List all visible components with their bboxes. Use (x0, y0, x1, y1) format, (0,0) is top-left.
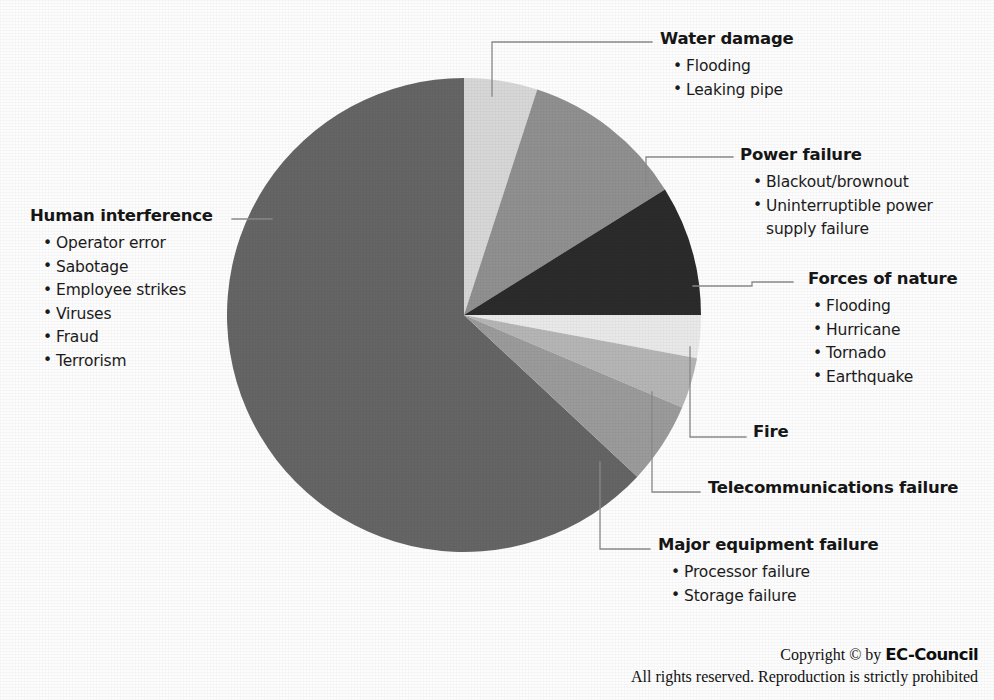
bullet-icon: • (43, 279, 52, 303)
pie-slices (227, 78, 701, 552)
copyright-line: Copyright © by EC-Council (631, 644, 978, 666)
bullet-icon: • (671, 561, 680, 585)
bullet-icon: • (753, 171, 762, 195)
list-item-label: Blackout/brownout (766, 173, 909, 191)
callout-list-water-damage: •Flooding •Leaking pipe (660, 55, 794, 102)
callout-fire: Fire (753, 423, 788, 441)
list-item-continuation: supply failure (753, 218, 933, 242)
list-item-label: supply failure (766, 220, 869, 238)
callout-list-human-interference: •Operator error •Sabotage •Employee stri… (30, 232, 213, 373)
bullet-icon: • (813, 295, 822, 319)
callout-power-failure: Power failure •Blackout/brownout •Uninte… (740, 146, 933, 242)
bullet-icon: • (43, 326, 52, 350)
list-item: •Fraud (43, 326, 213, 350)
callout-title-forces-of-nature: Forces of nature (800, 270, 958, 288)
list-item-label: Storage failure (684, 587, 796, 605)
bullet-icon: • (673, 78, 682, 102)
list-item-label: Earthquake (826, 368, 913, 386)
list-item-label: Fraud (56, 328, 99, 346)
callout-title-human-interference: Human interference (30, 207, 213, 225)
list-item: •Employee strikes (43, 279, 213, 303)
list-item: •Flooding (673, 55, 794, 79)
list-item: •Viruses (43, 303, 213, 327)
list-item-label: Flooding (826, 297, 891, 315)
list-item: •Uninterruptible power (753, 195, 933, 219)
callout-title-fire: Fire (753, 423, 788, 441)
callout-telecommunications-failure: Telecommunications failure (708, 479, 958, 497)
ec-council-brand: EC-Council (885, 645, 978, 664)
list-item: •Earthquake (813, 366, 958, 390)
list-item-label: Operator error (56, 234, 166, 252)
list-item-label: Uninterruptible power (766, 197, 933, 215)
list-item-label: Viruses (56, 305, 111, 323)
list-item-label: Leaking pipe (686, 81, 783, 99)
bullet-icon: • (673, 55, 682, 79)
rights-reserved-line: All rights reserved. Reproduction is str… (631, 666, 978, 688)
bullet-icon: • (813, 365, 822, 389)
callout-list-power-failure: •Blackout/brownout •Uninterruptible powe… (740, 171, 933, 242)
list-item: •Operator error (43, 232, 213, 256)
list-item: •Blackout/brownout (753, 171, 933, 195)
callout-title-telecommunications-failure: Telecommunications failure (708, 479, 958, 497)
callout-title-major-equipment-failure: Major equipment failure (658, 536, 879, 554)
callout-human-interference: Human interference •Operator error •Sabo… (30, 207, 213, 373)
list-item-label: Tornado (826, 344, 886, 362)
list-item-label: Hurricane (826, 321, 900, 339)
list-item: •Terrorism (43, 350, 213, 374)
list-item-label: Sabotage (56, 258, 128, 276)
list-item: •Tornado (813, 342, 958, 366)
list-item-label: Terrorism (56, 352, 127, 370)
list-item: •Flooding (813, 295, 958, 319)
callout-title-water-damage: Water damage (660, 30, 794, 48)
callout-list-forces-of-nature: •Flooding •Hurricane •Tornado •Earthquak… (800, 295, 958, 389)
callout-title-power-failure: Power failure (740, 146, 933, 164)
list-item: •Hurricane (813, 319, 958, 343)
bullet-icon: • (43, 232, 52, 256)
callout-major-equipment-failure: Major equipment failure •Processor failu… (658, 536, 879, 608)
callout-water-damage: Water damage •Flooding •Leaking pipe (660, 30, 794, 102)
leader-line-fire (690, 347, 746, 437)
list-item-label: Employee strikes (56, 281, 186, 299)
leader-line-forces-of-nature (693, 282, 793, 286)
list-item: •Sabotage (43, 256, 213, 280)
callout-list-major-equipment-failure: •Processor failure •Storage failure (658, 561, 879, 608)
bullet-icon: • (43, 302, 52, 326)
callout-forces-of-nature: Forces of nature •Flooding •Hurricane •T… (800, 270, 958, 389)
pie-chart-page: Water damage •Flooding •Leaking pipe Pow… (0, 0, 994, 700)
list-item-label: Flooding (686, 57, 751, 75)
copyright-text: Copyright © by (780, 646, 885, 663)
bullet-icon: • (43, 255, 52, 279)
bullet-icon: • (753, 194, 762, 218)
list-item-label: Processor failure (684, 563, 810, 581)
list-item: •Storage failure (671, 585, 879, 609)
copyright-footer: Copyright © by EC-Council All rights res… (631, 644, 978, 688)
bullet-icon: • (813, 318, 822, 342)
list-item: •Processor failure (671, 561, 879, 585)
bullet-icon: • (813, 342, 822, 366)
bullet-icon: • (43, 349, 52, 373)
list-item: •Leaking pipe (673, 79, 794, 103)
bullet-icon: • (671, 584, 680, 608)
